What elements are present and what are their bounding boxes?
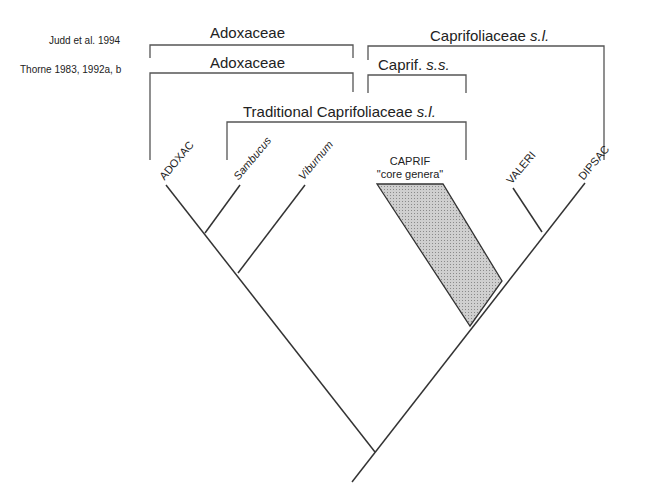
core-genera-label: "core genera"	[370, 168, 450, 181]
caprif-core-clade	[377, 184, 502, 326]
traditional-caprifoliaceae-label: Traditional Caprifoliaceae s.l.	[243, 103, 436, 120]
caprif-label: CAPRIF	[370, 155, 450, 168]
judd-caprifoliaceae-label: Caprifoliaceae s.l.	[430, 27, 549, 44]
thorne-caprif-ss-label: Caprif. s.s.	[378, 56, 450, 73]
thorne-adoxaceae-label: Adoxaceae	[210, 54, 285, 71]
source-thorne: Thorne 1983, 1992a, b	[20, 64, 121, 75]
phylogeny-diagram	[0, 0, 645, 501]
source-judd: Judd et al. 1994	[49, 35, 120, 46]
tree-branches	[166, 183, 585, 482]
judd-adoxaceae-label: Adoxaceae	[210, 24, 285, 41]
tip-caprif: CAPRIF "core genera"	[370, 155, 450, 181]
